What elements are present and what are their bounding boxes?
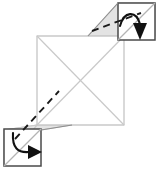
fold-diagram-container: Paper folding diagram Geometric net of a… <box>0 0 159 169</box>
fold-diagram-svg: Paper folding diagram Geometric net of a… <box>0 0 159 169</box>
